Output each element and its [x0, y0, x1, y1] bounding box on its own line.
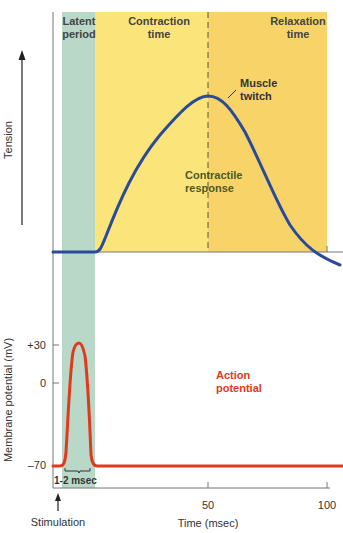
tension-label: Tension [2, 121, 14, 159]
stimulation-label: Stimulation [31, 516, 85, 528]
muscle-twitch-diagram: Tension Latent period Contraction time R… [0, 0, 343, 533]
contraction-label-1: Contraction [128, 15, 190, 27]
action-potential-label-2: potential [216, 382, 262, 394]
x-axis-label: Time (msec) [178, 517, 239, 529]
relaxation-label-1: Relaxation [270, 15, 326, 27]
contractile-response-label-2: response [185, 182, 234, 194]
duration-label: 1-2 msec [54, 475, 97, 486]
stimulation-arrow-icon [55, 493, 61, 501]
relaxation-label-2: time [287, 28, 310, 40]
tension-arrow-icon [19, 50, 26, 60]
xtick-50: 50 [202, 499, 214, 511]
ytick-minus70: –70 [28, 459, 46, 471]
latent-label-2: period [62, 28, 96, 40]
contraction-region [95, 12, 208, 252]
membrane-potential-label: Membrane potential (mV) [2, 338, 14, 462]
latent-label-1: Latent [63, 15, 96, 27]
xtick-100: 100 [318, 499, 336, 511]
contraction-label-2: time [148, 28, 171, 40]
ytick-plus30: +30 [27, 339, 46, 351]
relaxation-region [208, 12, 327, 252]
muscle-twitch-label-2: twitch [240, 90, 272, 102]
contractile-response-label-1: Contractile [185, 169, 242, 181]
muscle-twitch-label-1: Muscle [240, 77, 277, 89]
ytick-zero: 0 [40, 377, 46, 389]
action-potential-label-1: Action [216, 369, 251, 381]
action-potential-curve [53, 343, 343, 466]
